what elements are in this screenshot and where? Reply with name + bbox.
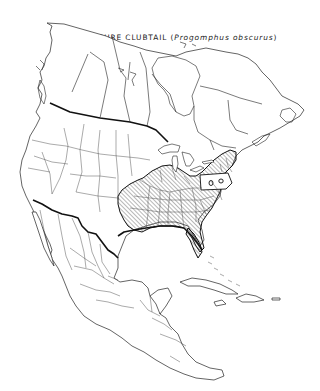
bahamas xyxy=(208,256,240,286)
alaska-panhandle xyxy=(36,60,44,70)
hispaniola xyxy=(236,294,264,302)
jamaica xyxy=(214,300,226,306)
range-map xyxy=(0,0,320,391)
puerto-rico xyxy=(272,298,280,300)
excluded-oval-2 xyxy=(219,179,223,183)
